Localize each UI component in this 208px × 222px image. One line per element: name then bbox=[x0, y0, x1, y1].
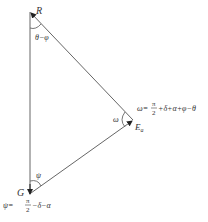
formula-omega-rhs: +δ+α+φ−θ bbox=[158, 104, 196, 113]
angle-label-psi: ψ bbox=[36, 171, 42, 180]
angle-label-theta-minus-phi: θ−φ bbox=[35, 33, 49, 42]
formula-omega-frac-num: π bbox=[152, 100, 156, 108]
formula-psi-lhs: ψ= bbox=[3, 201, 13, 210]
force-triangle-diagram: R G Ea θ−φ ω ψ ω= π 2 +δ+α+φ−θ ψ= π 2 −δ… bbox=[0, 0, 208, 222]
side-g-e bbox=[31, 121, 132, 193]
vertex-label-g: G bbox=[17, 187, 24, 198]
angle-arc-e bbox=[122, 112, 125, 127]
angle-label-omega: ω bbox=[113, 115, 119, 124]
formula-psi-frac-num: π bbox=[26, 197, 30, 205]
vertex-label-r: R bbox=[35, 5, 42, 16]
formula-omega: ω= π 2 +δ+α+φ−θ bbox=[137, 100, 196, 117]
formula-omega-lhs: ω= bbox=[137, 104, 148, 113]
formula-psi-frac-den: 2 bbox=[26, 206, 30, 214]
angle-arc-g bbox=[30, 181, 41, 186]
vertex-label-e: Ea bbox=[134, 122, 144, 133]
formula-psi-rhs: −δ−α bbox=[32, 201, 52, 210]
side-r-e bbox=[31, 13, 133, 120]
formula-psi: ψ= π 2 −δ−α bbox=[3, 197, 52, 214]
formula-omega-frac-den: 2 bbox=[152, 109, 156, 117]
angle-arc-r bbox=[30, 24, 41, 29]
